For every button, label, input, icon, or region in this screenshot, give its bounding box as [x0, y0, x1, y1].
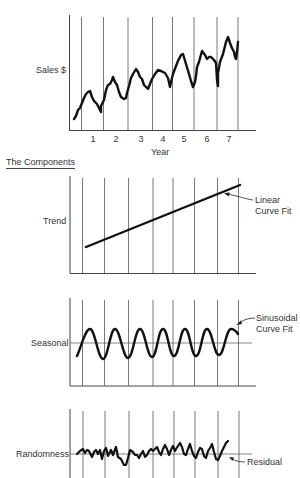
- sales-ylabel: Sales $: [36, 65, 66, 75]
- randomness-curve: [77, 441, 228, 465]
- randomness-annotation: Residual: [247, 457, 282, 467]
- sales-curve: [74, 37, 238, 119]
- randomness-panel: [70, 409, 252, 478]
- year-tick-5: 5: [178, 134, 190, 144]
- year-tick-7: 7: [223, 134, 235, 144]
- sales-xlabel: Year: [151, 147, 169, 157]
- seasonal-annotation-line2: Curve Fit: [256, 324, 293, 334]
- randomness-annotation-arrow: [232, 459, 245, 462]
- trend-line: [86, 185, 240, 247]
- components-heading: The Components: [6, 157, 75, 169]
- sales-panel: [69, 15, 256, 131]
- seasonal-ylabel: Seasonal: [31, 338, 69, 348]
- trend-panel: [70, 176, 256, 274]
- year-tick-2: 2: [110, 134, 122, 144]
- seasonal-curve: [77, 329, 238, 359]
- trend-annotation-line2: Curve Fit: [255, 206, 292, 216]
- trend-annotation-line1: Linear: [255, 195, 280, 205]
- year-tick-6: 6: [201, 134, 213, 144]
- trend-annotation-arrow: [227, 194, 253, 200]
- year-tick-4: 4: [157, 134, 169, 144]
- trend-ylabel: Trend: [43, 216, 66, 226]
- sales-gridlines: [82, 17, 239, 130]
- seasonal-panel: [70, 298, 256, 386]
- year-tick-3: 3: [135, 134, 147, 144]
- seasonal-annotation-line1: Sinusoidal: [256, 313, 298, 323]
- year-tick-1: 1: [87, 134, 99, 144]
- randomness-ylabel: Randomness: [16, 449, 69, 459]
